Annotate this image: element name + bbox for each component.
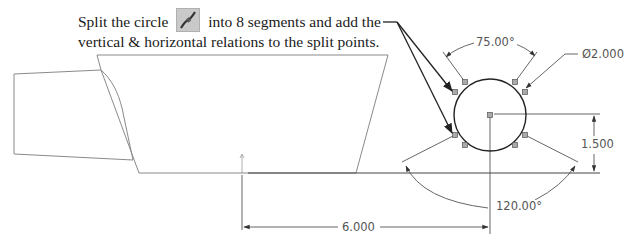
split-point[interactable] — [513, 143, 518, 148]
split-point[interactable] — [523, 90, 528, 95]
circle-center-point[interactable] — [488, 113, 493, 118]
instruction-callout: Split the circle into 8 segments and add… — [78, 8, 381, 52]
diameter-label[interactable]: Ø2.000 — [580, 48, 626, 61]
split-entities-icon — [176, 8, 200, 32]
split-point[interactable] — [513, 80, 518, 85]
horizontal-dimension-label[interactable]: 6.000 — [340, 221, 377, 234]
diameter-leader — [526, 54, 578, 88]
callout-leader — [383, 22, 452, 133]
split-point[interactable] — [453, 90, 458, 95]
callout-text-part2: into 8 segments and add the — [208, 13, 381, 30]
origin-marker — [240, 154, 244, 173]
left-body-outline — [14, 70, 133, 160]
callout-text-part1: Split the circle — [78, 13, 168, 30]
split-point[interactable] — [523, 133, 528, 138]
vertical-dimension-label[interactable]: 1.500 — [579, 138, 616, 151]
callout-text-line2: vertical & horizontal relations to the s… — [78, 32, 381, 52]
split-point[interactable] — [463, 80, 468, 85]
split-point[interactable] — [453, 133, 458, 138]
split-point[interactable] — [463, 143, 468, 148]
bottom-angle-label[interactable]: 120.00° — [494, 200, 544, 213]
top-angle-label[interactable]: 75.00° — [474, 36, 517, 49]
